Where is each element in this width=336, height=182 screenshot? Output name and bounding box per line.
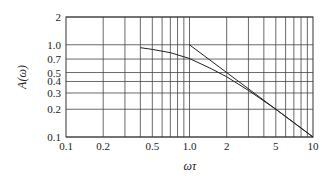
x-tick-label: 1.0: [183, 140, 197, 152]
x-tick-label: 2: [224, 140, 230, 152]
x-tick-label: 0.2: [96, 140, 110, 152]
y-tick-label: 2: [56, 11, 62, 23]
grid: [66, 17, 313, 137]
y-tick-label: 0.1: [47, 131, 61, 143]
y-tick-labels: 21.00.70.50.40.30.20.1: [47, 11, 61, 143]
chart: 0.10.20.51.02510 21.00.70.50.40.30.20.1 …: [0, 0, 336, 182]
y-tick-label: 0.3: [47, 87, 61, 99]
y-tick-label: 0.4: [47, 75, 61, 87]
x-tick-label: 10: [308, 140, 320, 152]
x-axis-label: ωτ: [184, 159, 197, 173]
series-line: [190, 45, 314, 137]
x-tick-label: 0.1: [59, 140, 73, 152]
x-tick-label: 0.5: [145, 140, 159, 152]
y-tick-label: 0.7: [47, 53, 61, 65]
x-tick-label: 5: [273, 140, 279, 152]
x-tick-labels: 0.10.20.51.02510: [59, 140, 319, 152]
y-tick-label: 1.0: [47, 39, 61, 51]
y-tick-label: 0.2: [47, 103, 61, 115]
y-axis-label: A(ω): [15, 65, 29, 90]
